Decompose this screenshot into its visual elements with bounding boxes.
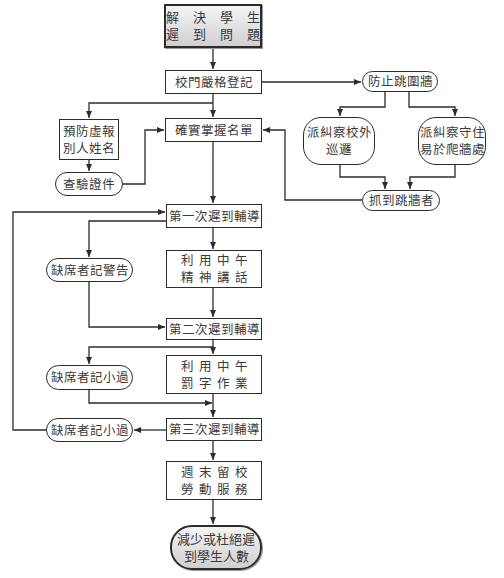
node-text: 罰字作業 (176, 375, 253, 392)
weekend-service-node: 週末留校 勞動服務 (166, 461, 262, 500)
node-text: 易於爬牆處 (420, 141, 485, 158)
absent-warning-node: 缺席者記警告 (46, 258, 133, 282)
node-text: 確實掌握名單 (175, 122, 253, 139)
guard-wall-node: 派糾察守住 易於爬牆處 (418, 117, 486, 165)
prevent-wall-jump-node: 防止跳圍牆 (362, 71, 438, 92)
first-counsel-node: 第一次遲到輔導 (166, 204, 262, 228)
second-counsel-node: 第二次遲到輔導 (166, 318, 262, 340)
node-text: 解 決 學 生 (161, 9, 265, 26)
node-text: 遲 到 問 題 (161, 26, 265, 43)
node-text: 派糾察校外 (307, 124, 372, 141)
catch-jumpers-node: 抓到跳牆者 (362, 190, 440, 211)
node-text: 第二次遲到輔導 (169, 321, 260, 338)
absent-demerit-1-node: 缺席者記小過 (46, 365, 133, 390)
noon-talk-node: 利用中午 精神講話 (166, 250, 262, 288)
node-text: 別人姓名 (63, 140, 115, 157)
node-text: 精神講話 (176, 269, 253, 286)
node-text: 到學生人數 (184, 548, 249, 565)
node-text: 查驗證件 (63, 176, 115, 193)
node-text: 第三次遲到輔導 (169, 421, 260, 438)
node-text: 預防虛報 (63, 123, 115, 140)
prevent-fake-name-node: 預防虛報 別人姓名 (59, 119, 119, 160)
third-counsel-node: 第三次遲到輔導 (166, 418, 262, 441)
gate-register-node: 校門嚴格登記 (165, 70, 262, 94)
node-text: 防止跳圍牆 (368, 73, 433, 90)
flowchart-canvas: 解 決 學 生 遲 到 問 題 校門嚴格登記 預防虛報 別人姓名 查驗證件 確實… (0, 0, 504, 578)
node-text: 缺席者記小過 (51, 369, 129, 386)
node-text: 第一次遲到輔導 (169, 208, 260, 225)
node-text: 派糾察守住 (420, 124, 485, 141)
node-text: 減少或杜絕遲 (177, 531, 255, 548)
node-text: 利用中午 (176, 358, 253, 375)
absent-demerit-2-node: 缺席者記小過 (46, 418, 133, 442)
node-text: 校門嚴格登記 (175, 74, 253, 91)
patrol-outside-node: 派糾察校外 巡邏 (303, 117, 375, 165)
node-text: 利用中午 (176, 252, 253, 269)
confirm-list-node: 確實掌握名單 (165, 118, 262, 142)
node-text: 巡邏 (326, 141, 352, 158)
node-text: 缺席者記小過 (51, 422, 129, 439)
node-text: 抓到跳牆者 (369, 192, 434, 209)
check-id-node: 查驗證件 (55, 172, 123, 196)
node-text: 週末留校 (176, 464, 253, 481)
node-text: 勞動服務 (176, 481, 253, 498)
noon-writing-node: 利用中午 罰字作業 (166, 355, 262, 394)
start-node: 解 決 學 生 遲 到 問 題 (164, 4, 262, 48)
node-text: 缺席者記警告 (51, 262, 129, 279)
end-node: 減少或杜絕遲 到學生人數 (170, 525, 262, 570)
